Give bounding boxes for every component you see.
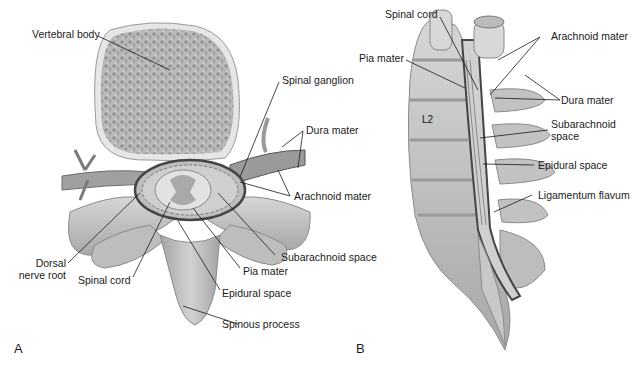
- label-dura-mater-a: Dura mater: [306, 124, 359, 136]
- panel-b-illustration: [408, 10, 555, 350]
- label-dorsal-nerve-root-line2: nerve root: [14, 269, 66, 281]
- spinal-anatomy-illustration: [0, 0, 637, 365]
- label-spinal-cord-a: Spinal cord: [78, 274, 131, 286]
- label-pia-mater-b: Pia mater: [359, 52, 404, 64]
- panel-letter-b: B: [356, 341, 365, 356]
- label-pia-mater-a: Pia mater: [243, 265, 288, 277]
- label-subarachnoid-line1: Subarachnoid: [551, 118, 616, 130]
- label-arachnoid-mater-a: Arachnoid mater: [294, 190, 371, 202]
- label-spinous-process: Spinous process: [222, 318, 300, 330]
- label-epidural-space-b: Epidural space: [538, 159, 607, 171]
- label-spinal-ganglion: Spinal ganglion: [282, 74, 354, 86]
- panel-letter-a: A: [14, 341, 23, 356]
- label-subarachnoid-space-b: Subarachnoid space: [551, 118, 616, 142]
- label-vertebra-l2: L2: [422, 114, 433, 126]
- label-subarachnoid-line2: space: [551, 130, 616, 142]
- label-subarachnoid-space-a: Subarachnoid space: [281, 251, 377, 263]
- label-dorsal-nerve-root-line1: Dorsal: [14, 257, 66, 269]
- label-ligamentum-flavum: Ligamentum flavum: [538, 189, 630, 201]
- label-epidural-space-a: Epidural space: [222, 287, 291, 299]
- label-dura-mater-b: Dura mater: [561, 94, 614, 106]
- label-spinal-cord-b: Spinal cord: [385, 8, 438, 20]
- label-dorsal-nerve-root: Dorsal nerve root: [14, 257, 66, 281]
- label-arachnoid-mater-b: Arachnoid mater: [551, 30, 628, 42]
- label-vertebral-body: Vertebral body: [32, 28, 100, 40]
